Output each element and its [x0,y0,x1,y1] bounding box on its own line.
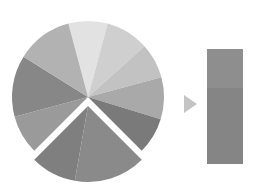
arrow-right-icon [184,95,197,113]
bar-segment [207,88,243,164]
bar-segment [207,49,243,88]
pie-to-bar-diagram [0,0,256,196]
stacked-bar [207,49,243,164]
